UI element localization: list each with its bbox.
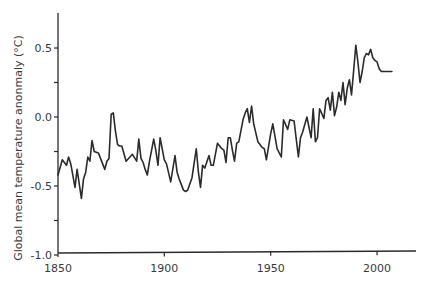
y-tick-label: 0.5 bbox=[35, 42, 53, 55]
y-tick-label: -0.5 bbox=[31, 180, 52, 193]
y-tick-label: 0.0 bbox=[35, 111, 53, 124]
x-axis-line bbox=[58, 251, 416, 253]
temperature-anomaly-line bbox=[58, 45, 392, 198]
x-tick-label: 1950 bbox=[257, 262, 285, 275]
y-axis: -1.0-0.50.00.5 bbox=[31, 13, 58, 262]
x-tick-label: 1900 bbox=[150, 262, 178, 275]
y-tick-label: -1.0 bbox=[31, 249, 52, 262]
x-tick-label: 2000 bbox=[363, 262, 391, 275]
x-tick-label: 1850 bbox=[44, 262, 72, 275]
temperature-anomaly-chart: -1.0-0.50.00.5 1850190019502000 Global m… bbox=[0, 0, 426, 281]
y-axis-title: Global mean temperature anonmaly (°C) bbox=[12, 35, 25, 261]
x-axis: 1850190019502000 bbox=[44, 251, 416, 275]
